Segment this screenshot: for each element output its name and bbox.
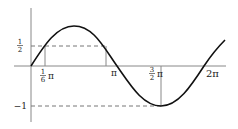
svg-text:π: π [48, 71, 54, 81]
y-label-half: 1 2 [17, 38, 23, 54]
svg-text:6: 6 [41, 76, 46, 84]
x-label-pi-sixth: 1 6 π [40, 68, 54, 84]
svg-text:2: 2 [150, 74, 154, 82]
svg-text:1: 1 [18, 38, 22, 46]
x-label-pi: π [111, 68, 117, 78]
x-label-two-pi: 2π [206, 68, 219, 79]
svg-text:π: π [157, 69, 163, 79]
svg-text:2: 2 [18, 46, 22, 54]
svg-text:1: 1 [41, 68, 45, 76]
sine-graph: 1 2 −1 1 6 π π 3 2 π 2π [0, 0, 238, 129]
y-label-neg-one: −1 [14, 101, 27, 111]
svg-text:3: 3 [150, 66, 154, 74]
